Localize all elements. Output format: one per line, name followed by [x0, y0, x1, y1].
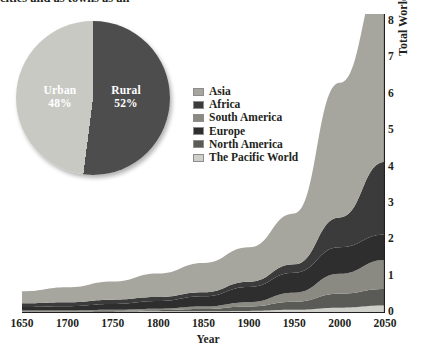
x-tick-1650: 1650: [2, 317, 42, 329]
y-tick-1: 1: [388, 269, 402, 281]
x-tick-1850: 1850: [184, 317, 224, 329]
stacked-area-chart: [22, 14, 385, 314]
y-tick-3: 3: [388, 196, 402, 208]
x-tick-1750: 1750: [93, 317, 133, 329]
x-tick-1900: 1900: [229, 317, 269, 329]
cut-off-body-text: cities and as towns as an: [0, 0, 240, 5]
x-tick-1700: 1700: [47, 317, 87, 329]
x-tick-2000: 2000: [320, 317, 360, 329]
y-tick-6: 6: [388, 87, 402, 99]
x-tick-2050: 2050: [365, 317, 405, 329]
x-axis-label: Year: [178, 333, 238, 345]
y-axis-label: Total World Population (in billions): [396, 0, 412, 56]
x-tick-1950: 1950: [274, 317, 314, 329]
chart-canvas: [22, 14, 385, 314]
y-axis-label-bold: Total World Population: [396, 0, 410, 56]
x-tick-1800: 1800: [138, 317, 178, 329]
y-tick-0: 0: [388, 305, 402, 317]
y-tick-4: 4: [388, 160, 402, 172]
y-tick-5: 5: [388, 123, 402, 135]
y-tick-2: 2: [388, 232, 402, 244]
